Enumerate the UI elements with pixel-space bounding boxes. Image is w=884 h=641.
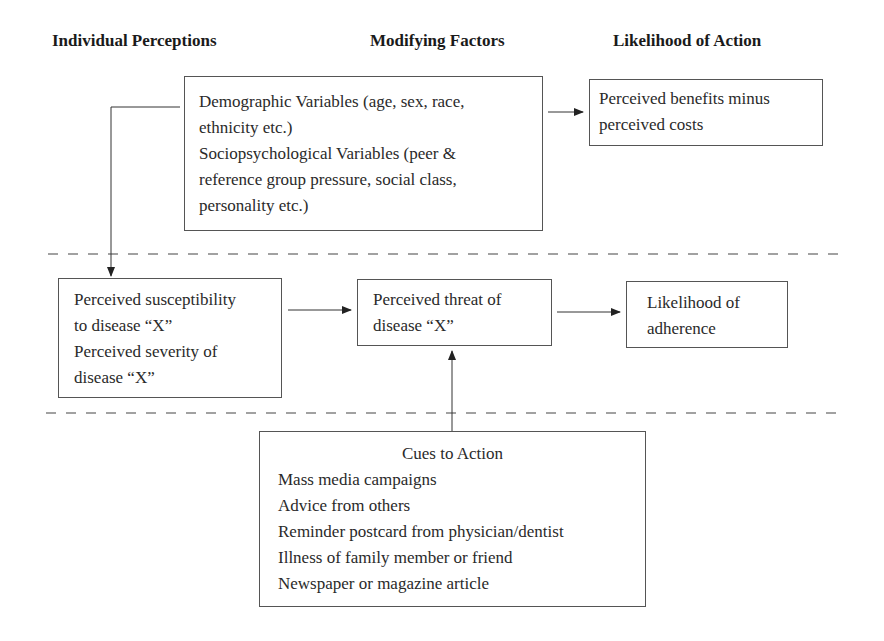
cues-item: Reminder postcard from physician/dentist (278, 519, 645, 545)
node-benefits-minus-costs: Perceived benefits minus perceived costs (589, 79, 823, 146)
node-line: adherence (647, 316, 787, 342)
node-perceived-threat: Perceived threat of disease “X” (357, 279, 552, 346)
node-cues-to-action: Cues to Action Mass media campaigns Advi… (259, 431, 646, 607)
node-line: disease “X” (373, 313, 551, 339)
node-perceived-susceptibility-severity: Perceived susceptibility to disease “X” … (58, 278, 282, 398)
cues-item: Newspaper or magazine article (278, 571, 645, 597)
node-line: disease “X” (74, 365, 281, 391)
node-line: perceived costs (599, 112, 822, 138)
node-line: Perceived benefits minus (599, 86, 822, 112)
arrow-modifying-to-perceptions (111, 107, 180, 276)
node-line: reference group pressure, social class, (199, 167, 542, 193)
node-modifying-factors: Demographic Variables (age, sex, race, e… (184, 76, 543, 231)
node-line: Perceived threat of (373, 287, 551, 313)
node-likelihood-of-adherence: Likelihood of adherence (626, 281, 788, 348)
node-line: ethnicity etc.) (199, 115, 542, 141)
node-line: Likelihood of (647, 290, 787, 316)
cues-item: Advice from others (278, 493, 645, 519)
cues-item: Illness of family member or friend (278, 545, 645, 571)
node-line: Demographic Variables (age, sex, race, (199, 89, 542, 115)
node-line: to disease “X” (74, 313, 281, 339)
node-line: Sociopsychological Variables (peer & (199, 141, 542, 167)
node-line: personality etc.) (199, 193, 542, 219)
node-line: Perceived severity of (74, 339, 281, 365)
cues-title: Cues to Action (260, 441, 645, 467)
cues-item: Mass media campaigns (278, 467, 645, 493)
node-line: Perceived susceptibility (74, 287, 281, 313)
